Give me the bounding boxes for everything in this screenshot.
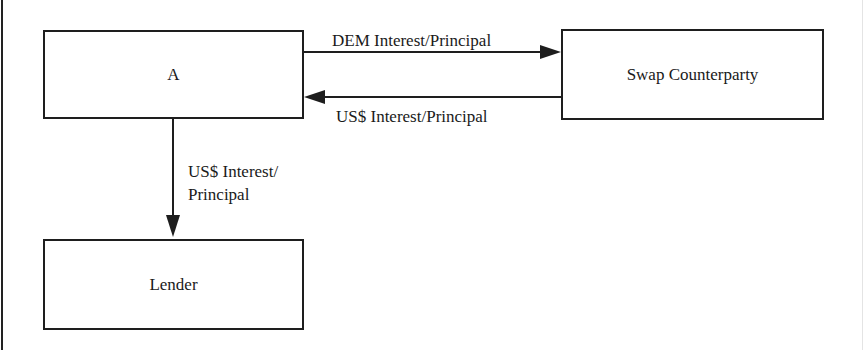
- node-lender-label: Lender: [149, 275, 197, 295]
- edge-label-usd-to-lender-line2: Principal: [188, 184, 249, 205]
- node-lender: Lender: [43, 239, 304, 330]
- node-a: A: [43, 30, 304, 119]
- node-a-label: A: [167, 65, 179, 85]
- edge-label-dem-interest-principal: DEM Interest/Principal: [332, 30, 491, 51]
- node-swap-counterparty: Swap Counterparty: [561, 29, 824, 120]
- edge-label-usd-interest-principal: US$ Interest/Principal: [336, 106, 488, 127]
- arrow-a-to-lender: [166, 118, 180, 237]
- arrow-swap-to-a: [304, 90, 562, 104]
- node-swap-counterparty-label: Swap Counterparty: [627, 65, 759, 85]
- edge-label-usd-to-lender-line1: US$ Interest/: [188, 161, 278, 182]
